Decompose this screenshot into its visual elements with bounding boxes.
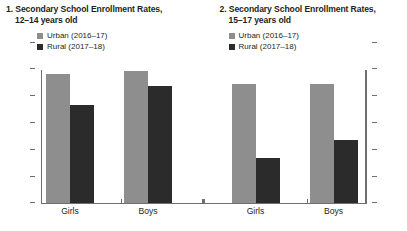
panel-1-category-divider-tick	[121, 199, 122, 203]
bar-boys-urban	[310, 84, 334, 202]
bar-boys-rural	[148, 86, 172, 203]
bar-boys-urban	[124, 71, 148, 202]
panel-2-plot-area: 120 100 80 60 40 20 0 Girls Boys	[204, 0, 407, 231]
panel-1-category-girls: Girls	[46, 206, 94, 216]
chart-panel-1: 1. Secondary School Enrollment Rates, 12…	[0, 0, 204, 231]
panel-1-category-boys: Boys	[124, 206, 172, 216]
bar-girls-urban	[232, 84, 256, 202]
panel-2-category-boys: Boys	[310, 206, 358, 216]
panel-2-category-divider-tick	[307, 199, 308, 203]
bar-girls-rural	[70, 105, 94, 203]
panel-2-category-girls: Girls	[232, 206, 280, 216]
bar-girls-urban	[46, 74, 70, 203]
chart-figure: 1. Secondary School Enrollment Rates, 12…	[0, 0, 407, 231]
panel-2-bars	[204, 0, 407, 231]
chart-panel-2: 2. Secondary School Enrollment Rates, 15…	[204, 0, 407, 231]
panel-1-plot-area: 120 100 80 60 40 20 0 Girls Boys	[0, 0, 204, 231]
bar-girls-rural	[256, 158, 280, 202]
bar-boys-rural	[334, 140, 358, 203]
panel-1-bars	[0, 0, 204, 231]
